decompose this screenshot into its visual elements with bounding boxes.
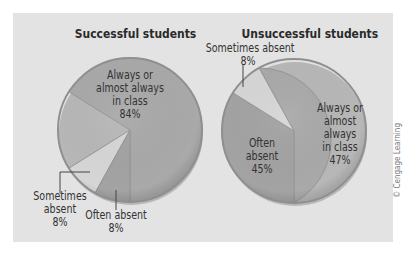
label-often-unsuccessful: Often absent 45% — [236, 137, 289, 176]
label-always-unsuccessful: Always or almost always in class 47% — [305, 102, 375, 167]
chart-title-successful: Successful students — [75, 26, 185, 41]
label-always-successful: Always or almost always in class 84% — [86, 69, 174, 121]
copyright-credit: © Cengage Learning — [393, 108, 402, 198]
label-often-successful: Often absent 8% — [81, 209, 151, 235]
label-sometimes-unsuccessful: Sometimes absent 8% — [206, 42, 290, 68]
chart-title-unsuccessful: Unsuccessful students — [242, 26, 371, 41]
